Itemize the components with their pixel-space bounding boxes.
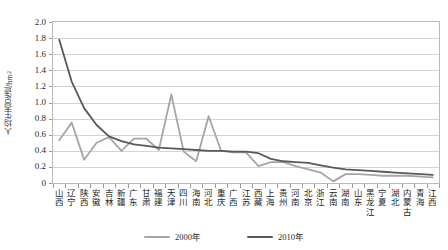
legend-item[interactable]: 2000年: [144, 233, 201, 242]
x-axis-label-char: 南: [190, 198, 203, 207]
x-axis-category-label: 河北: [202, 189, 215, 208]
x-axis-label-char: 林: [103, 198, 116, 207]
x-axis-tick-mark: [190, 184, 191, 188]
plot-area: [52, 21, 440, 184]
x-axis-tick-mark: [327, 184, 328, 188]
x-axis-tick-mark: [302, 184, 303, 188]
legend-label: 2000年: [175, 233, 201, 242]
x-axis-category-label: 河南: [289, 189, 302, 208]
x-axis-category-label: 辽宁: [65, 189, 78, 208]
x-axis-label-char: 州: [277, 198, 290, 207]
x-axis-label-char: 东: [352, 198, 365, 207]
x-axis-category-label: 云南: [327, 189, 340, 208]
x-axis-label-char: 苏: [240, 198, 253, 207]
x-axis-category-label: 四川: [177, 189, 190, 208]
x-axis-label-char: 江: [364, 208, 377, 217]
y-axis-tick-label: 0.4: [0, 146, 46, 155]
x-axis-label-char: 徽: [90, 198, 103, 207]
x-axis-tick-mark: [53, 184, 54, 188]
y-axis-tick-label: 1.2: [0, 82, 46, 91]
x-axis-tick-mark: [103, 184, 104, 188]
x-axis-label-char: 西: [53, 198, 66, 207]
y-axis-tick-label: 1.0: [0, 98, 46, 107]
ecological-footprint-line-chart: 人均生态足迹/hm2 2.01.81.61.41.21.00.80.60.40.…: [0, 0, 448, 250]
x-axis-category-label: 青海: [414, 189, 427, 208]
x-axis-label-char: 东: [127, 198, 140, 207]
x-axis-label-char: 南: [289, 198, 302, 207]
x-axis-label-char: 北: [389, 198, 402, 207]
x-axis-category-label: 广东: [127, 189, 140, 208]
x-axis-label-char: 川: [177, 198, 190, 207]
y-axis-tick-labels: 2.01.81.61.41.21.00.80.60.40.20: [0, 0, 50, 250]
x-axis-category-label: 天津: [165, 189, 178, 208]
x-axis-label-char: 京: [302, 198, 315, 207]
x-axis-category-label: 湖北: [389, 189, 402, 208]
x-axis-category-label: 吉林: [103, 189, 116, 208]
x-axis-label-char: 古: [401, 208, 414, 217]
x-axis-tick-mark: [439, 184, 440, 188]
x-axis-category-label: 安徽: [90, 189, 103, 208]
x-axis-category-label: 甘肃: [140, 189, 153, 208]
x-axis-label-char: 宁: [65, 198, 78, 207]
x-axis-category-label: 海南: [190, 189, 203, 208]
y-axis-tick-label: 1.8: [0, 34, 46, 43]
x-axis-category-label: 北京: [302, 189, 315, 208]
y-axis-tick-label: 0.2: [0, 162, 46, 171]
x-axis-tick-mark: [215, 184, 216, 188]
x-axis-label-char: 庆: [215, 198, 228, 207]
x-axis-label-char: 北: [202, 198, 215, 207]
legend-item[interactable]: 2010年: [247, 233, 304, 242]
x-axis-label-char: 津: [165, 198, 178, 207]
x-axis-category-labels: 山西辽宁陕西安徽吉林新疆广东甘肃福建天津四川海南河北重庆广西江苏西藏上海贵州河南…: [52, 189, 440, 229]
x-axis-label-char: 疆: [115, 198, 128, 207]
x-axis-label-char: 江: [314, 198, 327, 207]
x-axis-label-char: 西: [426, 198, 439, 207]
legend-color-swatch: [247, 236, 273, 239]
x-axis-label-char: 海: [414, 198, 427, 207]
x-axis-category-label: 江苏: [240, 189, 253, 208]
x-axis-tick-mark: [352, 184, 353, 188]
legend-label: 2010年: [278, 233, 304, 242]
y-axis-tick-label: 0.8: [0, 114, 46, 123]
x-axis-label-char: 藏: [252, 198, 265, 207]
x-axis-tick-mark: [78, 184, 79, 188]
x-axis-tick-mark: [140, 184, 141, 188]
chart-legend: 2000年2010年: [0, 229, 448, 245]
x-axis-category-label: 上海: [264, 189, 277, 208]
series-line-2010年: [59, 40, 433, 175]
x-axis-label-char: 西: [78, 198, 91, 207]
y-axis-tick-label: 0: [0, 179, 46, 188]
x-axis-category-label: 贵州: [277, 189, 290, 208]
y-axis-tick-label: 1.4: [0, 66, 46, 75]
x-axis-label-char: 夏: [376, 198, 389, 207]
x-axis-label-char: 南: [339, 198, 352, 207]
x-axis-label-char: 肃: [140, 198, 153, 207]
x-axis-tick-mark: [240, 184, 241, 188]
x-axis-label-char: 西: [227, 198, 240, 207]
y-axis-tick-label: 0.6: [0, 130, 46, 139]
x-axis-category-label: 宁夏: [376, 189, 389, 208]
y-axis-tick-label: 2.0: [0, 18, 46, 27]
x-axis-category-label: 山西: [53, 189, 66, 208]
x-axis-label-char: 建: [152, 198, 165, 207]
x-axis-tick-mark: [277, 184, 278, 188]
x-axis-tick-mark: [165, 184, 166, 188]
y-axis-tick-label: 1.6: [0, 50, 46, 59]
x-axis-label-char: 南: [327, 198, 340, 207]
x-axis-category-label: 陕西: [78, 189, 91, 208]
series-lines: [53, 22, 439, 183]
x-axis-label-char: 海: [264, 198, 277, 207]
x-axis-tick-mark: [414, 184, 415, 188]
legend-color-swatch: [144, 236, 170, 239]
x-axis-category-label: 福建: [152, 189, 165, 208]
x-axis-category-label: 江西: [426, 189, 439, 208]
x-axis-category-label: 广西: [227, 189, 240, 208]
x-axis-category-label: 湖南: [339, 189, 352, 208]
x-axis-category-label: 黑龙江: [364, 189, 377, 217]
x-axis-category-label: 新疆: [115, 189, 128, 208]
x-axis-category-label: 山东: [352, 189, 365, 208]
x-axis-category-label: 浙江: [314, 189, 327, 208]
x-axis-category-label: 西藏: [252, 189, 265, 208]
x-axis-category-label: 内蒙古: [401, 189, 414, 217]
x-axis-category-label: 重庆: [215, 189, 228, 208]
